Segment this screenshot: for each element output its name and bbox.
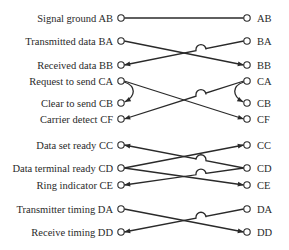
right-pin-label-cf: CF — [257, 114, 270, 125]
wires-layer — [124, 18, 244, 233]
left-terminal-da — [118, 206, 124, 212]
right-terminal-ca — [244, 78, 250, 84]
left-pin-label-cb: Clear to send CB — [41, 98, 113, 109]
left-pin-label-ba: Transmitted data BA — [25, 36, 113, 47]
left-terminal-cb — [118, 100, 124, 106]
wire-rcd-to-lcc-arrowhead — [124, 144, 130, 149]
left-pin-label-ab: Signal ground AB — [37, 13, 113, 24]
wire-lcd-to-rcc-arrowhead — [237, 144, 243, 149]
left-pin-label-ca: Request to send CA — [29, 76, 113, 87]
left-pin-label-dd: Receive timing DD — [31, 227, 113, 238]
right-pin-label-ce: CE — [257, 180, 270, 191]
left-pin-label-cc: Data set ready CC — [36, 140, 113, 151]
left-terminal-cf — [118, 116, 124, 122]
right-pin-label-bb: BB — [257, 60, 271, 71]
right-pin-label-cc: CC — [257, 140, 271, 151]
right-terminal-bb — [244, 62, 250, 68]
right-terminal-da — [244, 206, 250, 212]
wire-lca-to-rcf-arrowhead — [237, 115, 243, 120]
left-terminal-cc — [118, 142, 124, 148]
right-terminal-dd — [244, 229, 250, 235]
wire-rcd-to-lce-arrowhead — [124, 182, 130, 187]
left-terminal-ab — [118, 15, 124, 21]
left-pin-label-cf: Carrier detect CF — [40, 114, 113, 125]
left-terminal-ba — [118, 38, 124, 44]
left-terminal-dd — [118, 229, 124, 235]
left-pin-label-cd: Data terminal ready CD — [12, 163, 113, 174]
right-terminal-ce — [244, 182, 250, 188]
right-terminal-cd — [244, 165, 250, 171]
right-terminal-ba — [244, 38, 250, 44]
right-pin-label-ab: AB — [257, 13, 272, 24]
right-terminal-cc — [244, 142, 250, 148]
right-pin-label-ca: CA — [257, 76, 272, 87]
right-pin-label-cb: CB — [257, 98, 271, 109]
labels-layer: Signal ground ABTransmitted data BARecei… — [12, 13, 272, 238]
wire-lcd-to-rce-arrowhead — [238, 182, 244, 187]
left-pin-label-bb: Received data BB — [37, 60, 113, 71]
left-terminal-cd — [118, 165, 124, 171]
right-terminal-cf — [244, 116, 250, 122]
wire-lda-to-rdd-arrowhead — [237, 229, 243, 234]
left-terminal-bb — [118, 62, 124, 68]
right-pin-label-dd: DD — [257, 227, 273, 238]
wire-rda-to-ldd-arrowhead — [124, 229, 130, 234]
left-pin-label-da: Transmitter timing DA — [17, 204, 114, 215]
right-pin-label-ba: BA — [257, 36, 272, 47]
right-terminal-cb — [244, 100, 250, 106]
left-pin-label-ce: Ring indicator CE — [37, 180, 113, 191]
right-terminal-ab — [244, 15, 250, 21]
right-pin-label-cd: CD — [257, 163, 272, 174]
wire-rca-to-lcf-arrowhead — [124, 115, 130, 120]
left-terminal-ce — [118, 182, 124, 188]
left-terminal-ca — [118, 78, 124, 84]
terminals-layer — [118, 15, 250, 235]
right-pin-label-da: DA — [257, 204, 273, 215]
null-modem-wiring-diagram: Signal ground ABTransmitted data BARecei… — [0, 0, 289, 250]
